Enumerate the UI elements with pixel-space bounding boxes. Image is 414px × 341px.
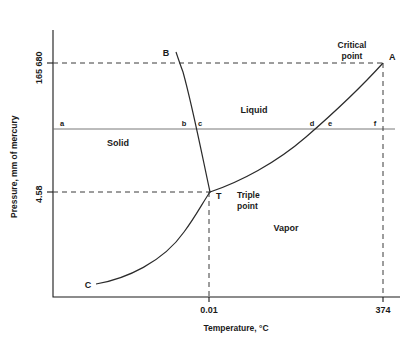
x-tick-label-374: 374	[375, 305, 390, 315]
point-label-f: f	[374, 119, 377, 128]
phase-diagram-figure: Pressure, mm of mercury 165 680 4.58 0.0…	[0, 0, 414, 341]
y-tick-label-458: 4.58	[34, 185, 44, 203]
point-label-C: C	[85, 280, 92, 290]
region-label-solid: Solid	[107, 138, 129, 148]
point-label-c: c	[198, 119, 202, 128]
point-label-A: A	[389, 52, 396, 62]
annotation-critical-point-line2: point	[342, 51, 363, 61]
axis-frame	[53, 30, 400, 297]
annotation-triple-point-line2: point	[237, 201, 258, 211]
vaporization-curve-TA	[210, 63, 383, 192]
annotation-critical-point-line1: Critical	[338, 40, 367, 50]
point-label-b: b	[182, 119, 187, 128]
x-tick-label-001: 0.01	[200, 305, 218, 315]
y-axis-title: Pressure, mm of mercury	[9, 115, 19, 218]
region-label-liquid: Liquid	[241, 105, 268, 115]
point-label-T: T	[216, 191, 222, 201]
sublimation-curve-CT	[96, 192, 210, 284]
point-label-d: d	[310, 119, 315, 128]
y-tick-label-165680: 165 680	[34, 51, 44, 84]
region-label-vapor: Vapor	[273, 223, 299, 233]
point-label-e: e	[328, 119, 332, 128]
point-label-B: B	[163, 48, 170, 58]
x-axis-title: Temperature, °C	[203, 323, 268, 333]
annotation-triple-point-line1: Triple	[237, 190, 260, 200]
phase-diagram-svg: Pressure, mm of mercury 165 680 4.58 0.0…	[0, 0, 414, 341]
point-label-a: a	[60, 119, 65, 128]
